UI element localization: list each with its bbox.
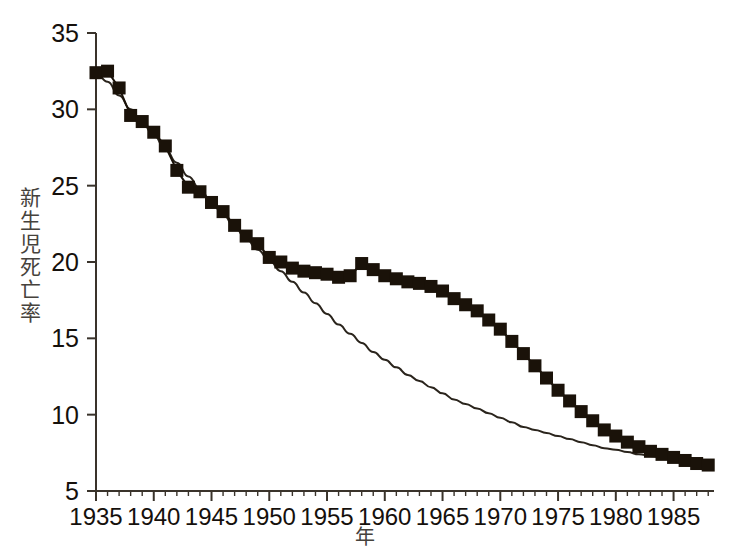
data-point-marker: [690, 457, 703, 470]
data-point-marker: [632, 440, 645, 453]
data-point-marker: [459, 298, 472, 311]
data-point-marker: [170, 164, 183, 177]
data-point-marker: [482, 314, 495, 327]
data-point-marker: [101, 65, 114, 78]
data-point-marker: [540, 372, 553, 385]
data-point-marker: [563, 394, 576, 407]
data-point-marker: [528, 359, 541, 372]
data-point-marker: [286, 262, 299, 275]
data-point-marker: [552, 384, 565, 397]
chart-plot-area: 5101520253035 19351940194519501955196019…: [0, 0, 730, 560]
data-point-marker: [436, 285, 449, 298]
data-point-marker: [424, 280, 437, 293]
data-point-marker: [621, 436, 634, 449]
data-point-marker: [297, 265, 310, 278]
data-point-marker: [113, 81, 126, 94]
data-point-marker: [367, 263, 380, 276]
data-point-marker: [390, 272, 403, 285]
data-point-marker: [274, 256, 287, 269]
data-point-marker: [240, 230, 253, 243]
data-point-marker: [644, 445, 657, 458]
observed-data-polyline: [96, 71, 708, 465]
y-tick-label: 20: [51, 248, 79, 276]
data-point-marker: [667, 451, 680, 464]
data-point-marker: [656, 448, 669, 461]
observed-data-markers: [90, 65, 715, 472]
data-point-marker: [205, 196, 218, 209]
y-tick-label: 5: [65, 477, 79, 505]
data-point-marker: [586, 414, 599, 427]
data-point-marker: [344, 269, 357, 282]
x-axis-label-text: 年: [355, 525, 375, 549]
data-point-marker: [378, 269, 391, 282]
fitted-curve-series: [96, 73, 708, 464]
chart-figure: 新生児死亡率 5101520253035 1935194019451950195…: [0, 0, 730, 560]
axis-lines: [96, 33, 714, 491]
fitted-curve-path: [96, 73, 708, 464]
data-point-marker: [90, 66, 103, 79]
data-point-marker: [702, 459, 715, 472]
y-tick-label: 10: [51, 401, 79, 429]
data-point-marker: [136, 115, 149, 128]
y-tick-label: 15: [51, 324, 79, 352]
data-point-marker: [609, 430, 622, 443]
y-tick-label: 35: [51, 19, 79, 47]
data-point-marker: [321, 268, 334, 281]
data-point-marker: [263, 251, 276, 264]
observed-data-line: [96, 71, 708, 465]
data-point-marker: [251, 237, 264, 250]
data-point-marker: [598, 423, 611, 436]
data-point-marker: [309, 266, 322, 279]
y-tick-label: 30: [51, 95, 79, 123]
data-point-marker: [193, 185, 206, 198]
data-point-marker: [147, 126, 160, 139]
data-point-marker: [159, 139, 172, 152]
data-point-marker: [494, 323, 507, 336]
data-point-marker: [228, 219, 241, 232]
data-point-marker: [124, 109, 137, 122]
data-point-marker: [332, 271, 345, 284]
y-axis-label: 新生児死亡率: [8, 168, 48, 343]
data-point-marker: [575, 405, 588, 418]
data-point-marker: [448, 292, 461, 305]
x-axis-label: 年: [0, 521, 730, 550]
data-point-marker: [505, 335, 518, 348]
data-point-marker: [355, 257, 368, 270]
y-axis-label-text: 新生児死亡率: [18, 187, 39, 325]
data-point-marker: [679, 454, 692, 467]
data-point-marker: [217, 205, 230, 218]
data-point-marker: [182, 181, 195, 194]
y-tick-group: 5101520253035: [51, 19, 96, 505]
data-point-marker: [517, 347, 530, 360]
y-tick-label: 25: [51, 172, 79, 200]
data-point-marker: [413, 277, 426, 290]
data-point-marker: [471, 304, 484, 317]
data-point-marker: [401, 275, 414, 288]
